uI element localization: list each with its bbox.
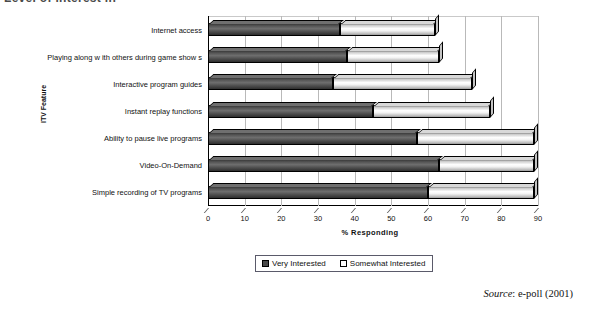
tick-mark (534, 208, 539, 213)
bar-end-cap (490, 96, 494, 118)
legend-swatch-icon (340, 260, 347, 267)
tick-label: 90 (526, 214, 550, 223)
category-label: Playing along w ith others during game s… (20, 53, 202, 62)
tick-mark (240, 208, 245, 213)
bar-top-face (429, 183, 538, 187)
bar-group[interactable] (208, 186, 538, 199)
bar-segment[interactable] (208, 23, 340, 36)
bar-segment[interactable] (428, 186, 534, 199)
bar-group[interactable] (208, 23, 538, 36)
bar-top-face (334, 74, 476, 78)
clipped-page-heading: Level of interest in (0, 0, 300, 7)
bar-top-face (209, 183, 432, 187)
tick-label: 80 (489, 214, 513, 223)
plot-area (208, 16, 538, 206)
category-label: Ability to pause live programs (20, 134, 202, 143)
tick-mark (424, 208, 429, 213)
tick-label: 50 (379, 214, 403, 223)
bar-end-cap (435, 14, 439, 36)
bar-top-face (209, 20, 344, 24)
bar-end-cap (472, 69, 476, 91)
source-prefix: Source (484, 288, 513, 299)
category-label: Simple recording of TV programs (20, 188, 202, 197)
bar-segment[interactable] (208, 159, 439, 172)
tick-label: 40 (343, 214, 367, 223)
tick-mark (204, 208, 209, 213)
tick-mark (497, 208, 502, 213)
tick-label: 70 (453, 214, 477, 223)
chart-legend: Very Interested Somewhat Interested (255, 255, 433, 272)
category-axis-labels: Internet accessPlaying along w ith other… (20, 22, 202, 208)
tick-mark (277, 208, 282, 213)
source-text: : e-poll (2001) (512, 288, 573, 299)
tick-label: 60 (416, 214, 440, 223)
gridline (538, 16, 539, 206)
legend-label: Very Interested (272, 259, 326, 268)
bar-group[interactable] (208, 77, 538, 90)
bar-segment[interactable] (208, 50, 347, 63)
bar-group[interactable] (208, 105, 538, 118)
bar-segment[interactable] (208, 132, 417, 145)
legend-label: Somewhat Interested (350, 259, 426, 268)
bar-segment[interactable] (347, 50, 439, 63)
tick-mark (387, 208, 392, 213)
bar-top-face (209, 156, 443, 160)
x-axis-ticks: 0102030405060708090 (208, 208, 548, 226)
bar-top-face (209, 74, 336, 78)
bar-top-face (418, 129, 538, 133)
category-label: Video-On-Demand (20, 161, 202, 170)
bar-top-face (341, 20, 439, 24)
bar-segment[interactable] (208, 77, 333, 90)
bar-end-cap (534, 177, 538, 199)
source-note: Source: e-poll (2001) (484, 288, 573, 299)
bar-top-face (348, 47, 442, 51)
tick-label: 20 (269, 214, 293, 223)
tick-label: 30 (306, 214, 330, 223)
tick-mark (460, 208, 465, 213)
bar-top-face (209, 47, 351, 51)
tick-label: 0 (196, 214, 220, 223)
bar-segment[interactable] (208, 105, 373, 118)
bar-top-face (209, 129, 421, 133)
tick-label: 10 (233, 214, 257, 223)
bar-segment[interactable] (373, 105, 490, 118)
x-axis-title: % Responding (205, 228, 535, 237)
category-label: Instant replay functions (20, 107, 202, 116)
bar-segment[interactable] (333, 77, 472, 90)
legend-swatch-icon (262, 260, 269, 267)
bar-top-face (209, 102, 377, 106)
bar-group[interactable] (208, 132, 538, 145)
legend-item-very-interested[interactable]: Very Interested (262, 259, 326, 268)
tick-mark (314, 208, 319, 213)
bar-top-face (440, 156, 538, 160)
bar-end-cap (439, 41, 443, 63)
bar-segment[interactable] (340, 23, 435, 36)
category-label: Internet access (20, 26, 202, 35)
bar-end-cap (534, 123, 538, 145)
bar-segment[interactable] (417, 132, 534, 145)
clipped-page-heading-text: Level of interest in (4, 0, 116, 5)
legend-item-somewhat-interested[interactable]: Somewhat Interested (340, 259, 426, 268)
bar-end-cap (534, 150, 538, 172)
bar-group[interactable] (208, 159, 538, 172)
category-label: Interactive program guides (20, 80, 202, 89)
bar-segment[interactable] (208, 186, 428, 199)
bar-top-face (374, 102, 494, 106)
tick-mark (350, 208, 355, 213)
bar-group[interactable] (208, 50, 538, 63)
bar-segment[interactable] (439, 159, 534, 172)
